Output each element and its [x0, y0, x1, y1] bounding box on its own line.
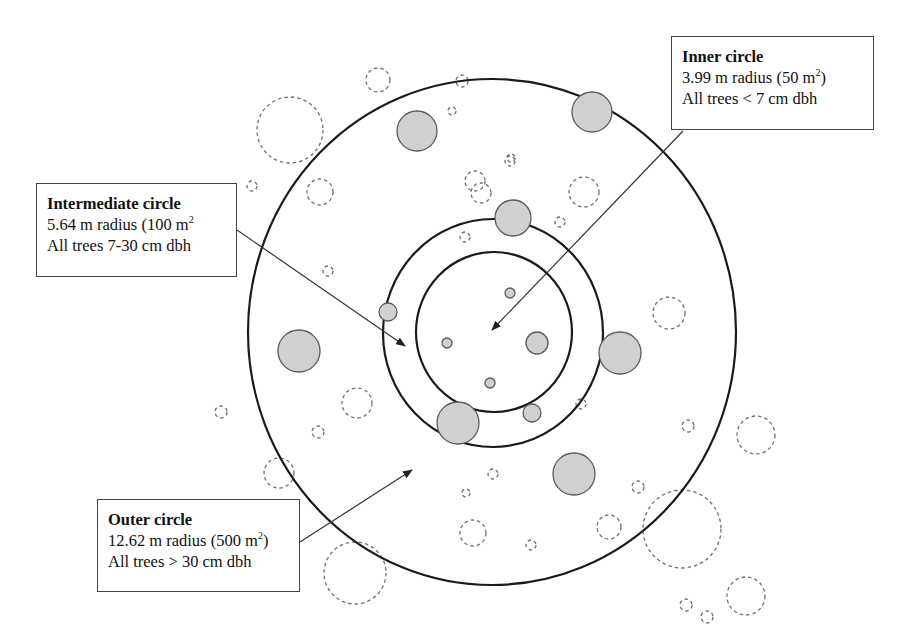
measured-tree [599, 332, 641, 374]
excluded-tree [682, 420, 694, 432]
measured-tree [505, 288, 515, 298]
excluded-tree [324, 542, 386, 604]
excluded-tree [460, 232, 470, 242]
outer-plot-ring [248, 79, 736, 585]
excluded-tree [569, 177, 599, 207]
outer-circle-radius: 12.62 m radius (500 m2) [108, 530, 289, 551]
excluded-tree [323, 266, 333, 276]
outer-circle-criteria: All trees > 30 cm dbh [108, 551, 289, 572]
excluded-tree [526, 540, 536, 550]
excluded-tree [462, 489, 470, 497]
measured-tree [553, 453, 595, 495]
excluded-tree [680, 599, 692, 611]
intermediate-circle-label: Intermediate circle 5.64 m radius (100 m… [36, 183, 237, 277]
intermediate-circle-radius: 5.64 m radius (100 m2 [47, 214, 226, 235]
intermediate-arrow [237, 230, 405, 346]
measured-tree [397, 111, 437, 151]
inner-circle-title: Inner circle [682, 46, 863, 67]
excluded-tree [597, 515, 621, 539]
excluded-tree [471, 183, 491, 203]
excluded-tree [257, 97, 323, 163]
inner-circle-criteria: All trees < 7 cm dbh [682, 88, 863, 109]
excluded-tree [460, 520, 486, 546]
excluded-tree [727, 577, 765, 615]
measured-tree [495, 200, 531, 236]
measured-trees [278, 92, 641, 495]
outer-arrow [300, 470, 412, 542]
excluded-tree [215, 406, 227, 418]
measured-tree [526, 332, 548, 354]
inner-circle-label: Inner circle 3.99 m radius (50 m2) All t… [671, 36, 874, 130]
excluded-tree [737, 416, 775, 454]
measured-tree [379, 303, 397, 321]
intermediate-circle-criteria: All trees 7-30 cm dbh [47, 235, 226, 256]
measured-tree [572, 92, 612, 132]
excluded-tree [632, 481, 644, 493]
measured-tree [278, 330, 320, 372]
outer-circle-title: Outer circle [108, 509, 289, 530]
excluded-tree [653, 297, 685, 329]
excluded-tree [366, 68, 390, 92]
excluded-tree [307, 179, 333, 205]
measured-tree [523, 404, 541, 422]
measured-tree [442, 338, 452, 348]
excluded-tree [643, 490, 721, 568]
excluded-tree [312, 426, 324, 438]
measured-tree [485, 378, 495, 388]
plot-rings [248, 79, 736, 585]
inner-circle-radius: 3.99 m radius (50 m2) [682, 67, 863, 88]
inner-plot-ring [416, 252, 572, 412]
excluded-tree [465, 171, 485, 191]
excluded-tree [247, 181, 257, 191]
excluded-tree [555, 217, 565, 227]
excluded-tree [342, 388, 372, 418]
intermediate-circle-title: Intermediate circle [47, 193, 226, 214]
excluded-tree [488, 469, 498, 479]
outer-circle-label: Outer circle 12.62 m radius (500 m2) All… [97, 499, 300, 592]
measured-tree [437, 402, 479, 444]
excluded-tree [448, 107, 456, 115]
excluded-tree [701, 611, 713, 623]
